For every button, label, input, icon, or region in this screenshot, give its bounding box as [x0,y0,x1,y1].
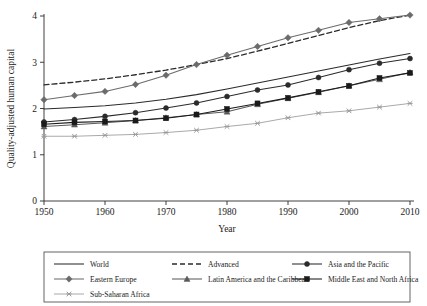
chart-figure: 012341950196019701980199020002010YearQua… [0,0,427,306]
series-world [44,53,410,109]
data-point-marker [225,94,230,99]
data-point-marker [193,61,199,67]
data-point-marker [164,116,169,121]
y-tick-label: 1 [32,150,37,160]
data-point-marker [133,118,138,123]
data-point-marker [408,70,413,75]
data-point-marker [72,120,77,125]
x-tick-label: 2000 [340,207,359,217]
legend-item-latin-america-and-the-caribbean[interactable]: Latin America and the Caribbean [172,275,309,284]
data-point-marker [286,95,291,100]
data-point-marker [347,83,352,88]
x-tick-label: 1950 [35,207,54,217]
data-point-marker [315,27,321,33]
series-path [44,53,410,109]
data-point-marker [71,92,77,98]
data-point-marker [346,19,352,25]
x-tick-label: 1960 [96,207,115,217]
series-path [44,72,410,126]
data-point-marker [103,119,108,124]
data-point-marker [347,67,352,72]
x-tick-label: 2010 [401,207,420,217]
legend-item-advanced[interactable]: Advanced [172,260,239,269]
data-point-marker [316,75,321,80]
data-point-marker [225,106,230,111]
data-point-marker [255,101,260,106]
legend-marker-diamond-icon [66,276,72,282]
y-tick-label: 0 [32,196,37,206]
legend-marker-circle-icon [305,262,310,267]
data-point-marker [408,56,413,61]
chart-svg: 012341950196019701980199020002010YearQua… [0,0,427,306]
data-point-marker [377,61,382,66]
y-axis-title: Quality-adjusted human capital [6,49,16,169]
legend-item-label: Eastern Europe [90,275,137,284]
data-point-marker [133,110,138,115]
data-point-marker [316,89,321,94]
legend-marker-square-icon [305,277,310,282]
legend-item-label: World [90,260,109,269]
data-point-marker [41,97,47,103]
data-point-marker [255,88,260,93]
x-axis-title: Year [218,224,236,234]
legend-item-label: Sub-Saharan Africa [90,290,150,299]
data-point-marker [102,88,108,94]
legend-item-world[interactable]: World [54,260,109,269]
x-tick-label: 1980 [218,207,237,217]
data-point-marker [103,114,108,119]
data-point-marker [163,72,169,78]
legend-item-middle-east-and-north-africa[interactable]: Middle East and North Africa [292,275,419,284]
legend: WorldAdvancedAsia and the PacificEastern… [44,252,419,302]
y-tick-label: 2 [32,104,37,114]
data-point-marker [254,43,260,49]
series-layer [41,12,413,139]
x-tick-label: 1990 [279,207,298,217]
data-point-marker [407,12,413,18]
data-point-marker [194,112,199,117]
data-point-marker [377,75,382,80]
legend-item-label: Asia and the Pacific [328,260,390,269]
data-point-marker [132,81,138,87]
series-advanced [44,15,410,85]
data-point-marker [42,122,47,127]
legend-item-sub-saharan-africa[interactable]: Sub-Saharan Africa [54,290,150,299]
data-point-marker [164,106,169,111]
data-point-marker [194,100,199,105]
legend-item-label: Advanced [208,260,239,269]
y-tick-label: 3 [32,58,37,68]
x-tick-label: 1970 [157,207,176,217]
data-point-marker [285,35,291,41]
data-point-marker [286,82,291,87]
y-tick-label: 4 [32,11,37,21]
legend-item-label: Middle East and North Africa [328,275,419,284]
series-path [44,15,410,85]
legend-item-asia-and-the-pacific[interactable]: Asia and the Pacific [292,260,390,269]
legend-item-eastern-europe[interactable]: Eastern Europe [54,275,137,284]
